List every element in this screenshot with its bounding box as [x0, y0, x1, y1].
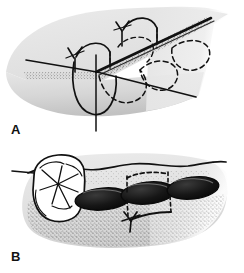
panel-b	[0, 140, 244, 273]
panel-a-illustration	[0, 0, 244, 140]
figure-root: A	[0, 0, 244, 273]
panel-b-label: B	[11, 250, 20, 263]
panel-b-illustration	[0, 140, 244, 273]
panel-a	[0, 0, 244, 140]
panel-a-label: A	[11, 123, 20, 136]
